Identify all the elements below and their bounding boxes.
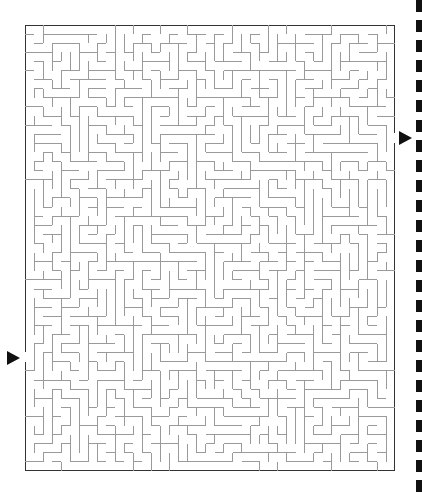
maze-walls bbox=[25, 25, 395, 471]
edge-strip bbox=[416, 0, 422, 496]
exit-arrow-icon bbox=[399, 131, 412, 145]
entry-arrow-icon bbox=[7, 351, 20, 365]
